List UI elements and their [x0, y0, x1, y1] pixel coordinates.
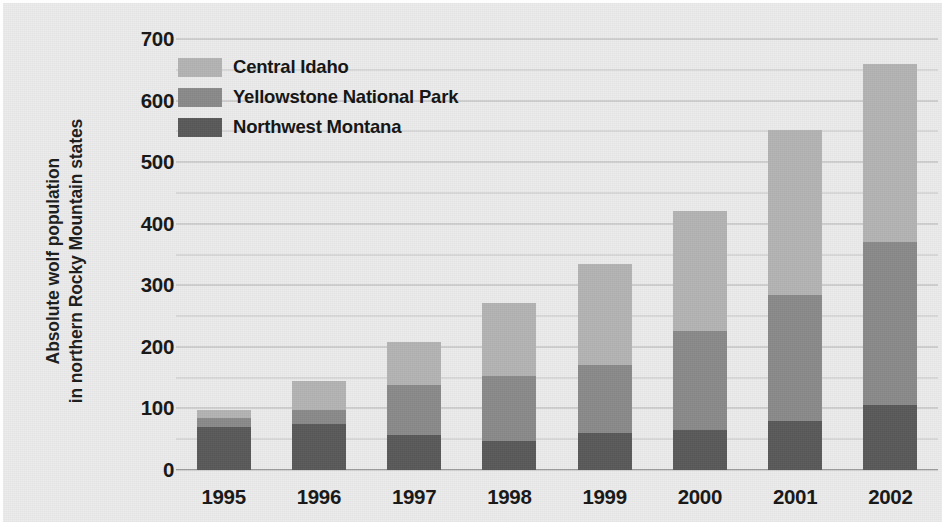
bar-segment-1998-central-idaho[interactable] [482, 303, 536, 377]
bar-segment-2001-northwest-montana[interactable] [768, 421, 822, 470]
stacked-bar-2000[interactable] [673, 211, 727, 470]
bar-segment-1999-central-idaho[interactable] [578, 264, 632, 366]
y-tick-label-200: 200 [100, 335, 174, 359]
stacked-bar-2002[interactable] [863, 64, 917, 470]
y-tick-label-700: 700 [100, 27, 174, 51]
bar-segment-1996-yellowstone-national-park[interactable] [292, 410, 346, 424]
bar-segment-2002-central-idaho[interactable] [863, 64, 917, 243]
stacked-bar-1998[interactable] [482, 303, 536, 470]
y-tick-label-600: 600 [100, 89, 174, 113]
legend-swatch-icon-northwest-montana [178, 118, 222, 137]
bar-segment-1997-central-idaho[interactable] [387, 342, 441, 385]
stacked-bar-1997[interactable] [387, 342, 441, 470]
x-tick-label-1998: 1998 [462, 472, 557, 522]
bar-slot-1998 [462, 39, 557, 470]
y-tick-label-500: 500 [100, 150, 174, 174]
x-tick-label-2002: 2002 [843, 472, 938, 522]
bar-segment-1998-northwest-montana[interactable] [482, 441, 536, 470]
bar-segment-1995-central-idaho[interactable] [197, 410, 251, 418]
x-tick-label-1995: 1995 [176, 472, 271, 522]
x-tick-label-1999: 1999 [557, 472, 652, 522]
y-tick-label-100: 100 [100, 396, 174, 420]
x-tick-label-1997: 1997 [367, 472, 462, 522]
stacked-bar-1995[interactable] [197, 410, 251, 470]
x-axis-tick-labels: 19951996199719981999200020012002 [176, 472, 938, 522]
y-tick-label-0: 0 [100, 458, 174, 482]
legend-item-northwest-montana[interactable]: Northwest Montana [178, 112, 458, 142]
bar-segment-1998-yellowstone-national-park[interactable] [482, 376, 536, 441]
stacked-bar-1996[interactable] [292, 381, 346, 470]
bar-segment-1995-yellowstone-national-park[interactable] [197, 418, 251, 427]
legend-swatch-icon-central-idaho [178, 58, 222, 77]
legend-item-central-idaho[interactable]: Central Idaho [178, 52, 458, 82]
x-tick-label-1996: 1996 [271, 472, 366, 522]
bar-segment-1997-yellowstone-national-park[interactable] [387, 385, 441, 435]
bar-slot-2002 [843, 39, 938, 470]
bar-slot-2001 [748, 39, 843, 470]
bar-segment-2002-yellowstone-national-park[interactable] [863, 242, 917, 405]
bar-segment-1996-northwest-montana[interactable] [292, 424, 346, 470]
bar-segment-1999-yellowstone-national-park[interactable] [578, 365, 632, 433]
y-tick-label-400: 400 [100, 212, 174, 236]
bar-segment-2001-central-idaho[interactable] [768, 130, 822, 294]
bar-slot-1999 [557, 39, 652, 470]
stacked-bar-2001[interactable] [768, 130, 822, 470]
legend-label: Northwest Montana [233, 116, 401, 138]
legend-item-yellowstone-national-park[interactable]: Yellowstone National Park [178, 82, 458, 112]
bar-segment-2001-yellowstone-national-park[interactable] [768, 295, 822, 421]
x-tick-label-2000: 2000 [652, 472, 747, 522]
bar-segment-1996-central-idaho[interactable] [292, 381, 346, 410]
y-tick-label-300: 300 [100, 273, 174, 297]
bar-segment-1995-northwest-montana[interactable] [197, 427, 251, 470]
bar-segment-1997-northwest-montana[interactable] [387, 435, 441, 470]
bar-segment-2000-central-idaho[interactable] [673, 211, 727, 331]
bar-segment-2000-northwest-montana[interactable] [673, 430, 727, 470]
stacked-bar-1999[interactable] [578, 264, 632, 470]
bar-segment-2002-northwest-montana[interactable] [863, 405, 917, 470]
y-axis-tick-labels: 7006005004003002001000 [56, 0, 174, 522]
bar-segment-1999-northwest-montana[interactable] [578, 433, 632, 470]
legend-swatch-icon-yellowstone-national-park [178, 88, 222, 107]
chart-legend: Central IdahoYellowstone National ParkNo… [178, 52, 458, 142]
x-tick-label-2001: 2001 [748, 472, 843, 522]
bar-slot-2000 [652, 39, 747, 470]
legend-label: Central Idaho [233, 56, 349, 78]
bar-segment-2000-yellowstone-national-park[interactable] [673, 331, 727, 430]
legend-label: Yellowstone National Park [233, 86, 458, 108]
